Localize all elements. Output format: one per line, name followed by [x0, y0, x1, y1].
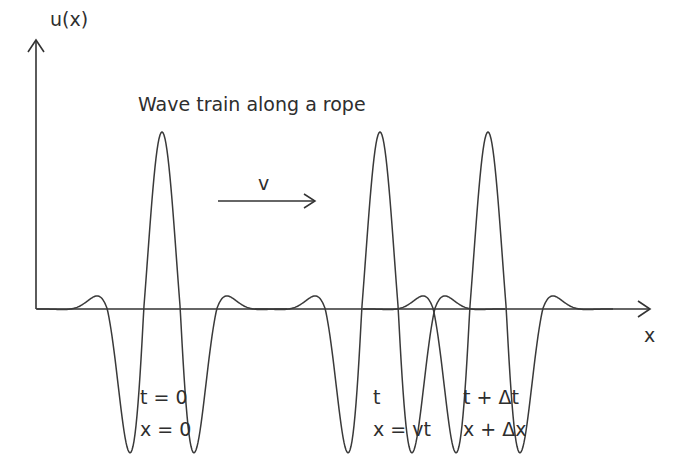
pulse-3-time-label: t + Δt: [463, 386, 519, 408]
diagram-canvas: [0, 0, 683, 467]
x-axis-label: x: [644, 324, 655, 346]
wave-train-diagram: u(x) Wave train along a rope v x t = 0 x…: [0, 0, 683, 467]
diagram-title: Wave train along a rope: [138, 93, 366, 115]
pulse-1-time-label: t = 0: [140, 386, 188, 408]
velocity-arrow-icon: [218, 194, 315, 208]
pulse-3-position-label: x + Δx: [463, 418, 527, 440]
velocity-label: v: [258, 172, 269, 194]
pulse-1-position-label: x = 0: [140, 418, 191, 440]
x-axis: [36, 301, 650, 317]
y-axis-label: u(x): [50, 8, 88, 30]
y-axis: [28, 40, 44, 309]
wave-pulses: [37, 132, 613, 453]
pulse-2-position-label: x = vt: [373, 418, 431, 440]
pulse-2-time-label: t: [373, 386, 380, 408]
